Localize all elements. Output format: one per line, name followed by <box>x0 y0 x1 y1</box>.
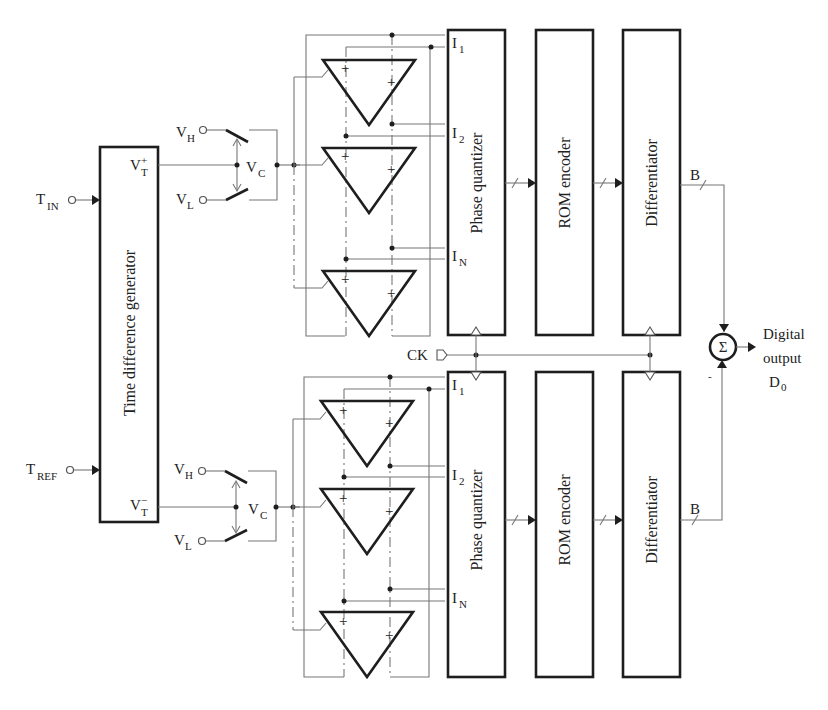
svg-text:V: V <box>130 157 141 173</box>
vh-terminal-icon <box>199 468 206 475</box>
svg-text:C: C <box>260 509 267 521</box>
svg-text:I: I <box>452 248 457 264</box>
svg-text:Σ: Σ <box>719 339 728 355</box>
svg-text:I: I <box>452 590 457 606</box>
vt-plus-port: V T + <box>130 154 148 178</box>
svg-text:I: I <box>452 377 457 393</box>
clock-edge-icon <box>645 372 655 380</box>
bus-label-bottom: B <box>690 501 700 517</box>
svg-text:V: V <box>248 501 259 517</box>
svg-text:+: + <box>385 627 393 643</box>
t-ref-terminal-icon <box>67 467 74 474</box>
svg-text:2: 2 <box>459 133 465 145</box>
clock-input-icon <box>437 350 447 360</box>
vl-terminal-icon <box>199 538 206 545</box>
clock-label: CK <box>407 347 428 363</box>
svg-text:V: V <box>174 532 185 548</box>
svg-text:REF: REF <box>37 470 57 482</box>
clock-edge-icon <box>471 327 481 335</box>
bus-label-top: B <box>690 167 700 183</box>
svg-text:2: 2 <box>459 475 465 487</box>
t-in-terminal-icon <box>69 197 76 204</box>
svg-text:ROM encoder: ROM encoder <box>556 137 573 229</box>
svg-text:T: T <box>141 166 148 178</box>
summing-junction: Σ - <box>708 324 756 382</box>
svg-text:+: + <box>341 60 349 76</box>
t-ref-input: T REF <box>26 461 100 482</box>
svg-text:T: T <box>26 461 35 477</box>
vh-terminal-icon <box>200 127 207 134</box>
svg-text:V: V <box>130 497 141 513</box>
svg-text:V: V <box>174 461 185 477</box>
svg-text:H: H <box>185 469 193 481</box>
time-difference-generator-block: Time difference generator <box>100 147 158 522</box>
svg-text:output: output <box>763 350 802 366</box>
svg-text:+: + <box>339 402 347 418</box>
svg-text:+: + <box>387 74 395 90</box>
svg-text:I: I <box>452 467 457 483</box>
svg-text:Phase quantizer: Phase quantizer <box>468 132 486 234</box>
bottom-comparator-bank: + + + + + + <box>293 375 445 678</box>
quantizer-input-labels-top: I 1 I 2 I N <box>452 35 467 268</box>
clock-edge-icon <box>471 372 481 380</box>
vl-terminal-icon <box>200 197 207 204</box>
bottom-pipeline: Phase quantizer I 1 I 2 I N ROM encoder … <box>448 365 722 677</box>
bottom-switch-network: V H V L V C <box>158 461 300 552</box>
svg-text:L: L <box>185 540 192 552</box>
svg-text:Differentiator: Differentiator <box>643 476 660 564</box>
svg-text:Phase quantizer: Phase quantizer <box>468 469 486 571</box>
svg-text:+: + <box>339 613 347 629</box>
clock-line: CK <box>407 327 655 380</box>
svg-text:IN: IN <box>47 200 59 212</box>
svg-text:+: + <box>339 490 347 506</box>
svg-text:1: 1 <box>459 385 465 397</box>
svg-text:1: 1 <box>459 43 465 55</box>
svg-text:T: T <box>36 191 45 207</box>
svg-text:Digital: Digital <box>763 326 805 342</box>
svg-text:V: V <box>246 159 257 175</box>
svg-text:N: N <box>459 598 467 610</box>
svg-text:+: + <box>387 161 395 177</box>
minus-sign: - <box>708 370 712 382</box>
svg-text:+: + <box>385 503 393 519</box>
svg-text:0: 0 <box>781 381 787 393</box>
top-switch-network: V H V L V C <box>158 124 300 211</box>
svg-text:+: + <box>341 148 349 164</box>
output-arrow-icon <box>748 342 756 352</box>
svg-text:L: L <box>187 199 194 211</box>
vt-minus-port: V T − <box>130 494 148 518</box>
clock-edge-icon <box>645 327 655 335</box>
svg-text:C: C <box>258 167 265 179</box>
svg-text:Differentiator: Differentiator <box>643 139 660 227</box>
svg-text:H: H <box>187 132 195 144</box>
svg-text:I: I <box>452 125 457 141</box>
svg-text:−: − <box>141 494 147 506</box>
top-pipeline: Phase quantizer I 1 I 2 I N ROM encoder … <box>448 30 724 335</box>
digital-output-label: Digital output D 0 <box>763 326 805 393</box>
svg-text:ROM encoder: ROM encoder <box>556 474 573 566</box>
svg-text:D: D <box>769 374 780 390</box>
quantizer-input-labels-bottom: I 1 I 2 I N <box>452 377 467 610</box>
svg-text:T: T <box>141 506 148 518</box>
block-diagram: Time difference generator V T + V T − T … <box>0 0 828 710</box>
time-difference-generator-label: Time difference generator <box>121 249 139 416</box>
svg-text:+: + <box>387 285 395 301</box>
t-in-input: T IN <box>36 191 100 212</box>
top-comparator-bank: + + + + + + <box>294 33 445 337</box>
svg-text:V: V <box>176 191 187 207</box>
svg-text:+: + <box>341 271 349 287</box>
svg-text:I: I <box>452 35 457 51</box>
svg-text:+: + <box>141 154 147 166</box>
svg-text:+: + <box>385 415 393 431</box>
svg-text:N: N <box>459 256 467 268</box>
svg-text:V: V <box>176 124 187 140</box>
